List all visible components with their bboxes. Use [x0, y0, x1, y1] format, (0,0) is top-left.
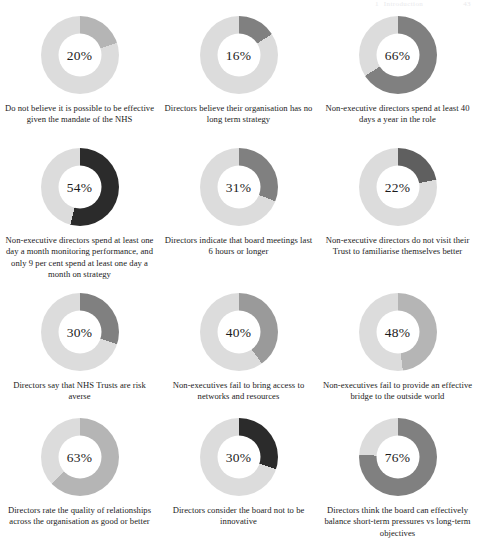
donut-graphic: 16% [200, 16, 278, 94]
donut-graphic: 66% [359, 16, 437, 94]
running-header-chapter-number: 1 [375, 0, 379, 8]
donut-center: 22% [376, 166, 419, 209]
donut-center: 31% [217, 166, 260, 209]
donut-center: 16% [217, 34, 260, 77]
donut-chart-12: 76%Directors think the board can effecti… [318, 412, 477, 535]
page-number: 43 [463, 0, 471, 8]
donut-chart-11: 30%Directors consider the board not to b… [159, 412, 318, 535]
donut-value-label: 66% [385, 48, 410, 62]
donut-graphic: 20% [41, 16, 119, 94]
donut-chart-7: 30%Directors say that NHS Trusts are ris… [0, 287, 159, 412]
donut-chart-6: 22%Non-executive directors do not visit … [318, 142, 477, 287]
donut-graphic: 22% [359, 148, 437, 226]
donut-caption: Non-executive directors spend at least o… [1, 235, 159, 281]
donut-graphic: 40% [200, 293, 278, 371]
donut-caption: Directors think the board can effectivel… [322, 505, 474, 539]
donut-graphic: 48% [359, 293, 437, 371]
donut-center: 63% [58, 436, 101, 479]
donut-caption: Do not believe it is possible to be effe… [4, 103, 156, 126]
donut-center: 30% [217, 436, 260, 479]
donut-center: 20% [58, 34, 101, 77]
donut-caption: Directors indicate that board meetings l… [163, 235, 315, 258]
donut-graphic: 31% [200, 148, 278, 226]
donut-center: 30% [58, 311, 101, 354]
donut-center: 54% [58, 166, 101, 209]
donut-chart-grid: 20%Do not believe it is possible to be e… [0, 10, 477, 535]
running-header: 1 Introduction 43 [0, 0, 477, 10]
donut-chart-1: 20%Do not believe it is possible to be e… [0, 10, 159, 142]
donut-center: 66% [376, 34, 419, 77]
donut-value-label: 48% [385, 325, 410, 339]
donut-graphic: 76% [359, 418, 437, 496]
donut-caption: Directors consider the board not to be i… [163, 505, 315, 528]
donut-value-label: 63% [67, 450, 92, 464]
donut-chart-3: 66%Non-executive directors spend at leas… [318, 10, 477, 142]
donut-value-label: 20% [67, 48, 92, 62]
donut-chart-9: 48%Non-executives fail to provide an eff… [318, 287, 477, 412]
donut-center: 40% [217, 311, 260, 354]
donut-chart-10: 63%Directors rate the quality of relatio… [0, 412, 159, 535]
donut-caption: Non-executive directors do not visit the… [322, 235, 474, 258]
donut-value-label: 30% [67, 325, 92, 339]
donut-value-label: 22% [385, 180, 410, 194]
running-header-chapter-title: Introduction [384, 0, 423, 8]
donut-graphic: 30% [41, 293, 119, 371]
donut-caption: Directors rate the quality of relationsh… [4, 505, 156, 528]
donut-value-label: 16% [226, 48, 251, 62]
donut-caption: Directors believe their organisation has… [163, 103, 315, 126]
donut-center: 48% [376, 311, 419, 354]
donut-caption: Non-executives fail to provide an effect… [322, 380, 474, 403]
donut-chart-8: 40%Non-executives fail to bring access t… [159, 287, 318, 412]
donut-caption: Non-executive directors spend at least 4… [322, 103, 474, 126]
donut-value-label: 40% [226, 325, 251, 339]
donut-graphic: 63% [41, 418, 119, 496]
donut-chart-2: 16%Directors believe their organisation … [159, 10, 318, 142]
donut-graphic: 54% [41, 148, 119, 226]
donut-value-label: 54% [67, 180, 92, 194]
donut-value-label: 30% [226, 450, 251, 464]
donut-chart-5: 31%Directors indicate that board meeting… [159, 142, 318, 287]
donut-value-label: 76% [385, 450, 410, 464]
donut-caption: Directors say that NHS Trusts are risk a… [4, 380, 156, 403]
donut-caption: Non-executives fail to bring access to n… [163, 380, 315, 403]
donut-graphic: 30% [200, 418, 278, 496]
donut-chart-4: 54%Non-executive directors spend at leas… [0, 142, 159, 287]
donut-value-label: 31% [226, 180, 251, 194]
donut-center: 76% [376, 436, 419, 479]
